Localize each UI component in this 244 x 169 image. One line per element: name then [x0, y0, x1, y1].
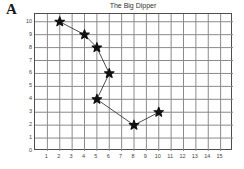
y-tick-label: 3	[4, 108, 32, 114]
y-tick-label: 8	[4, 44, 32, 50]
star-marker	[80, 30, 90, 39]
chart-title: The Big Dipper	[34, 1, 232, 11]
x-tick-label: 15	[212, 153, 228, 160]
star-marker	[55, 17, 65, 26]
y-tick-label: 1	[4, 134, 32, 140]
star-marker	[154, 107, 164, 116]
star-marker	[129, 120, 139, 129]
y-tick-label: 0	[4, 147, 32, 153]
y-tick-label: 7	[4, 57, 32, 63]
chart-figure: A The Big Dipper 012345678910 1234567891…	[0, 0, 244, 169]
y-tick-label: 5	[4, 82, 32, 88]
data-series-layer	[35, 14, 233, 151]
y-tick-label: 2	[4, 121, 32, 127]
plot-area	[34, 13, 232, 150]
y-tick-label: 6	[4, 69, 32, 75]
y-tick-label: 4	[4, 95, 32, 101]
y-axis-tick-labels: 012345678910	[0, 13, 32, 150]
y-tick-label: 9	[4, 31, 32, 37]
y-tick-label: 10	[4, 18, 32, 24]
x-axis-tick-labels: 123456789101112131415	[34, 153, 232, 163]
star-marker	[104, 68, 114, 77]
